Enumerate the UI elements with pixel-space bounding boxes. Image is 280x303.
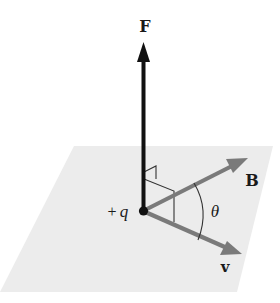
charge-label: q: [120, 202, 129, 221]
magnetic-force-diagram: F B v + q θ: [0, 0, 280, 303]
field-label: B: [245, 171, 259, 190]
force-label: F: [139, 17, 151, 36]
charge-dot: [139, 206, 148, 215]
angle-label: θ: [211, 202, 219, 221]
velocity-label: v: [220, 258, 231, 276]
charge-sign-label: +: [107, 203, 116, 220]
